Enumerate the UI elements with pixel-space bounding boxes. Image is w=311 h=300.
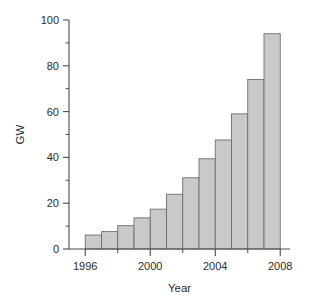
y-tick-label: 60 bbox=[47, 106, 59, 118]
bar bbox=[85, 235, 101, 249]
bar bbox=[199, 159, 215, 249]
y-tick-label: 0 bbox=[53, 243, 59, 255]
y-axis-title: GW bbox=[14, 124, 26, 144]
y-tick-label: 40 bbox=[47, 151, 59, 163]
x-tick-label: 1996 bbox=[73, 260, 97, 272]
bar bbox=[183, 178, 199, 249]
y-tick-label: 80 bbox=[47, 60, 59, 72]
x-tick-label: 2004 bbox=[203, 260, 227, 272]
bar bbox=[232, 114, 248, 249]
y-tick-label: 100 bbox=[41, 14, 59, 26]
x-tick-label: 2008 bbox=[268, 260, 292, 272]
bar bbox=[167, 194, 183, 249]
x-axis-title: Year bbox=[168, 282, 191, 294]
chart-canvas: 020406080100 1996200020042008 GW Year bbox=[0, 0, 311, 300]
bar bbox=[248, 80, 264, 249]
x-axis-ticks bbox=[85, 249, 280, 256]
bar-chart: 020406080100 1996200020042008 GW Year bbox=[0, 0, 311, 300]
y-axis-tick-labels: 020406080100 bbox=[41, 14, 59, 255]
x-tick-label: 2000 bbox=[138, 260, 162, 272]
bar bbox=[264, 34, 280, 249]
bar bbox=[134, 218, 150, 249]
bar bbox=[118, 226, 134, 249]
y-axis-ticks bbox=[63, 20, 69, 249]
bar bbox=[215, 140, 231, 249]
x-axis-tick-labels: 1996200020042008 bbox=[73, 260, 292, 272]
bar bbox=[102, 232, 118, 249]
bars-group bbox=[85, 34, 280, 249]
y-tick-label: 20 bbox=[47, 197, 59, 209]
bar bbox=[150, 209, 166, 249]
